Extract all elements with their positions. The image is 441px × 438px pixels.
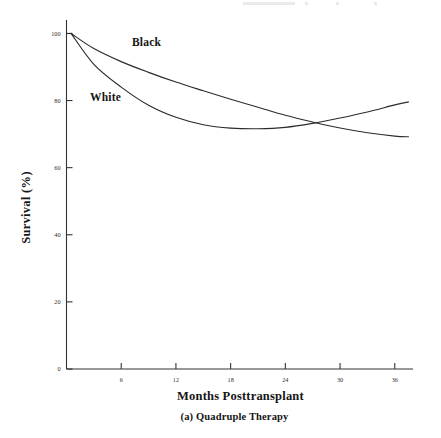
survival-curve-black bbox=[71, 33, 408, 136]
y-tick-label: 100 bbox=[51, 30, 60, 37]
y-tick-label: 0 bbox=[57, 365, 60, 372]
x-tick-label: 30 bbox=[337, 376, 343, 383]
x-tick-group: 61218243036 bbox=[120, 363, 398, 383]
figure-quadruple-therapy-survival: 020406080100 61218243036 Black White Sur… bbox=[0, 0, 441, 438]
y-tick-label: 60 bbox=[54, 164, 60, 171]
series-label-white: White bbox=[90, 91, 121, 103]
x-tick-label: 12 bbox=[173, 376, 179, 383]
figure-caption: (a) Quadruple Therapy bbox=[0, 411, 441, 422]
survival-curve-white bbox=[71, 33, 408, 128]
series-label-black: Black bbox=[132, 36, 161, 48]
axes bbox=[67, 20, 414, 369]
x-tick-label: 24 bbox=[282, 376, 288, 383]
y-tick-label: 80 bbox=[54, 97, 60, 104]
x-tick-label: 6 bbox=[120, 376, 123, 383]
curve-group bbox=[71, 33, 408, 136]
x-tick-label: 36 bbox=[392, 376, 398, 383]
y-axis-title: Survival (%) bbox=[19, 148, 34, 268]
y-tick-label: 40 bbox=[54, 231, 60, 238]
x-tick-label: 18 bbox=[228, 376, 234, 383]
y-tick-group: 020406080100 bbox=[51, 30, 72, 373]
y-tick-label: 20 bbox=[54, 298, 60, 305]
survival-plot: 020406080100 61218243036 bbox=[0, 0, 441, 438]
x-axis-title: Months Posttransplant bbox=[0, 389, 441, 404]
